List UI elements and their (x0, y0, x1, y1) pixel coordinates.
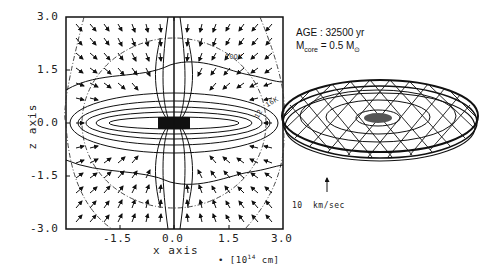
y-tick-neg3: -3.0 (30, 222, 59, 235)
scale-unit: km/sec (313, 201, 345, 210)
y-tick-1-5: 1.5 (37, 63, 58, 76)
wireframe-disk (282, 80, 478, 161)
unit-label: • [1014 cm] (218, 253, 280, 265)
figure-canvas (0, 0, 485, 269)
x-tick-neg1-5: -1.5 (103, 232, 132, 245)
sun-symbol: ⊙ (354, 46, 360, 53)
unit-exponent: 14 (248, 253, 256, 260)
scale-value: 10 (292, 201, 303, 210)
x-tick-1-5: 1.5 (218, 232, 239, 245)
axis-ticks (66, 17, 229, 229)
unit-suffix: cm] (256, 255, 280, 265)
x-tick-3: 3.0 (271, 232, 292, 245)
y-tick-neg1-5: -1.5 (30, 169, 59, 182)
y-axis-title: z axis (26, 97, 39, 157)
age-label: AGE : 32500 yr (296, 26, 364, 39)
mcore-value: = 0.5 M (318, 40, 354, 51)
unit-prefix: • [10 (218, 255, 248, 265)
y-tick-0: 0.0 (37, 116, 58, 129)
contour-label-100k: 100K (225, 53, 243, 60)
x-axis-title: x axis (153, 244, 199, 257)
mcore-sub: core (304, 46, 318, 53)
y-tick-3: 3.0 (37, 10, 58, 23)
mcore-label: Mcore = 0.5 M⊙ (296, 39, 360, 56)
